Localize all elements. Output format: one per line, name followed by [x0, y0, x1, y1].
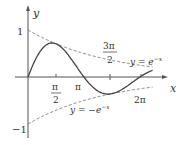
upper-annotation: y = e−x — [129, 55, 163, 67]
x-label: x — [170, 82, 177, 95]
y-label: y — [32, 7, 40, 20]
plot: y x 1 −1 π 2 π 3π 2 2π y = e−x y = −e−x — [0, 0, 179, 145]
y-tick-1: 1 — [17, 26, 23, 37]
y-tick-neg1: −1 — [12, 124, 27, 135]
plot-svg: y x 1 −1 π 2 π 3π 2 2π y = e−x y = −e−x — [0, 0, 179, 145]
tick-pi2-num: π — [52, 82, 58, 92]
tick-pi2-den: 2 — [53, 95, 59, 105]
tick-3pi2-den: 2 — [107, 55, 113, 65]
lower-annotation: y = −e−x — [69, 103, 110, 115]
tick-3pi2-num: 3π — [103, 41, 115, 51]
x-arrow-icon — [162, 75, 168, 79]
y-arrow-icon — [26, 5, 30, 11]
tick-pi: π — [75, 82, 81, 92]
tick-2pi: 2π — [134, 95, 146, 105]
damped-curve — [28, 43, 153, 94]
